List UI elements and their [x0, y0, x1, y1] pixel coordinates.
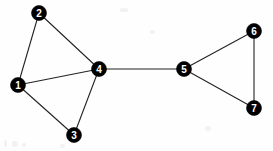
graph-canvas: 1 2 3 4 5 6 — [0, 0, 273, 151]
edge-3-4 — [74, 69, 99, 135]
node-4[interactable]: 4 — [92, 62, 107, 77]
node-6[interactable]: 6 — [247, 24, 262, 39]
edge-5-6 — [184, 31, 254, 69]
node-group: 1 2 3 4 5 6 — [11, 6, 262, 143]
node-7-circle[interactable] — [247, 101, 262, 116]
node-5[interactable]: 5 — [177, 62, 192, 77]
edge-group — [18, 13, 254, 135]
node-3[interactable]: 3 — [67, 128, 82, 143]
node-7[interactable]: 7 — [247, 101, 262, 116]
edge-5-7 — [184, 69, 254, 108]
node-2[interactable]: 2 — [32, 6, 47, 21]
edge-1-2 — [18, 13, 39, 85]
graph-diagram: 1 2 3 4 5 6 — [0, 0, 273, 151]
edge-1-3 — [18, 85, 74, 135]
node-3-circle[interactable] — [67, 128, 82, 143]
edge-1-4 — [18, 69, 99, 85]
node-2-circle[interactable] — [32, 6, 47, 21]
node-6-circle[interactable] — [247, 24, 262, 39]
node-1[interactable]: 1 — [11, 78, 26, 93]
node-4-circle[interactable] — [92, 62, 107, 77]
node-1-circle[interactable] — [11, 78, 26, 93]
node-5-circle[interactable] — [177, 62, 192, 77]
edge-2-4 — [39, 13, 99, 69]
